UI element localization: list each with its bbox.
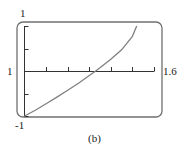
x-max-label: 1.6: [163, 66, 177, 77]
x-min-label: 1: [7, 66, 13, 77]
figure-caption: (b): [88, 133, 101, 144]
y-max-label: 1: [20, 8, 26, 19]
y-axis-ticks: [25, 27, 29, 117]
graph-window: [0, 0, 184, 154]
y-min-label: -1: [15, 120, 24, 131]
